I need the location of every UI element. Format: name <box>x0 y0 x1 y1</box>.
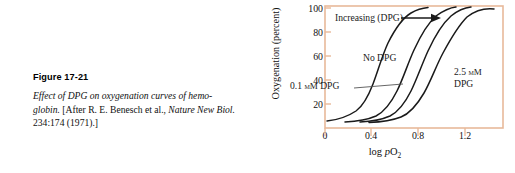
figure-number-label: Figure 17-21 <box>33 72 238 82</box>
oxygenation-curve-figure: Oxygenation (percent) 100 80 60 40 20 0 … <box>255 0 515 173</box>
annotation-no-dpg: No DPG <box>363 52 396 63</box>
annotation-0-1-mm-dpg: 0.1 mM DPG <box>290 80 339 92</box>
caption-line1: Effect of DPG on oxygenation curves of h… <box>33 90 212 101</box>
caption-line2-roman: [After R. E. Benesch et al., <box>60 104 168 115</box>
figure-caption-block: Figure 17-21 Effect of DPG on oxygenatio… <box>33 72 238 130</box>
annotation-increasing-dpg: Increasing (DPG) <box>335 12 403 23</box>
annotation-2-5-value: 2.5 <box>454 66 466 77</box>
caption-line2-italic: globin. <box>33 104 60 115</box>
annotation-2-5-unit: mM <box>468 67 481 77</box>
caption-citation-detail: 234:174 (1971).] <box>33 117 98 128</box>
x-axis-ticks <box>325 128 465 136</box>
annotation-2-5-name: DPG <box>454 78 473 89</box>
figure-caption-text: Effect of DPG on oxygenation curves of h… <box>33 89 238 130</box>
annotation-2-5-mm-dpg: 2.5 mMDPG <box>454 66 482 89</box>
caption-journal-name: Nature New <box>168 104 214 115</box>
annotation-0-1-unit: mM <box>304 81 317 91</box>
caption-journal-abbrev: Biol. <box>217 104 235 115</box>
annotation-0-1-name: DPG <box>320 80 339 91</box>
annotation-0-1-value: 0.1 <box>290 80 302 91</box>
